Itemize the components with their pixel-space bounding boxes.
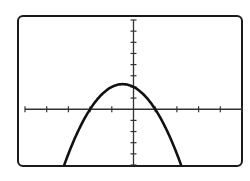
parabola-plot <box>0 0 250 181</box>
curves <box>64 84 181 165</box>
parabola-curve <box>64 84 181 165</box>
